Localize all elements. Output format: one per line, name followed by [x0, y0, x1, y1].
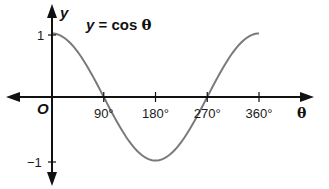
y-tick-label-neg1: −1: [27, 155, 42, 170]
x-tick-label: 90°: [94, 106, 114, 121]
origin-label: O: [37, 100, 49, 117]
x-tick-label: 270°: [194, 106, 221, 121]
cosine-chart: 1 −1 y O θ y = cos θ 90°180°270°360°: [0, 0, 329, 189]
x-tick-label: 180°: [142, 106, 169, 121]
x-axis-left-arrow-icon: [6, 92, 20, 102]
y-axis-up-arrow-icon: [47, 4, 57, 18]
title-var: θ: [141, 16, 151, 34]
x-axis-label: θ: [297, 105, 306, 121]
y-tick-label-1: 1: [37, 28, 44, 43]
y-axis: [47, 4, 57, 186]
x-tick-labels: 90°180°270°360°: [94, 106, 273, 121]
x-tick-label: 360°: [246, 106, 273, 121]
chart-title: y = cos θ: [85, 16, 151, 34]
title-rhs: = cos: [94, 16, 141, 33]
x-axis-right-arrow-icon: [300, 92, 314, 102]
y-axis-label: y: [59, 4, 69, 21]
y-axis-down-arrow-icon: [47, 172, 57, 186]
